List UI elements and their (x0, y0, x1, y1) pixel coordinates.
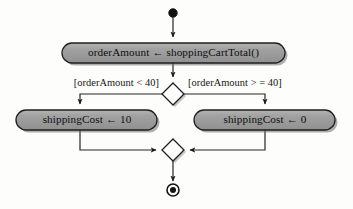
action-node-order-amount[interactable]: orderAmount ← shoppingCartTotal() (62, 43, 288, 66)
edge-path (80, 94, 162, 104)
guard-label-left: [orderAmount < 40] (74, 77, 159, 88)
action-node-shipping-cost-0[interactable]: shippingCost ← 0 (194, 110, 338, 133)
edge-decision-to-shipping-0 (184, 94, 265, 104)
activity-diagram: orderAmount ← shoppingCartTotal() [order… (0, 0, 353, 209)
action-node-shipping-cost-10[interactable]: shippingCost ← 10 (16, 110, 160, 133)
edge-decision-to-shipping-10 (80, 94, 162, 104)
decision-node[interactable] (162, 83, 186, 107)
edge-path (190, 130, 265, 150)
merge-node[interactable] (162, 139, 186, 163)
guard-label-right: [orderAmount > = 40] (188, 77, 282, 88)
edge-shipping-10-to-merge (80, 130, 156, 150)
action-node-label: orderAmount ← shoppingCartTotal() (88, 46, 259, 59)
edge-path (184, 94, 265, 104)
edge-path (80, 130, 156, 150)
action-node-label: shippingCost ← 0 (223, 113, 306, 125)
final-node (167, 184, 179, 196)
final-node-core (170, 187, 176, 193)
merge-node-body (162, 139, 184, 161)
decision-node-body (162, 83, 184, 105)
action-node-label: shippingCost ← 10 (43, 113, 132, 125)
initial-node-circle (169, 9, 177, 17)
initial-node (169, 9, 177, 17)
diagram-canvas: orderAmount ← shoppingCartTotal() [order… (0, 0, 353, 209)
edge-shipping-0-to-merge (190, 130, 265, 150)
